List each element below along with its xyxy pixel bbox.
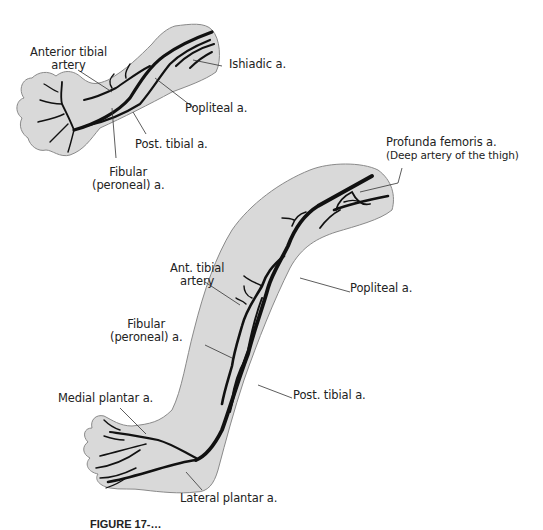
label-line-2: artery <box>170 275 224 288</box>
figure-caption: FIGURE 17-… <box>90 518 162 530</box>
caption-figure-number: FIGURE 17-… <box>90 518 162 530</box>
label-post-tibial-artery-small: Post. tibial a. <box>135 138 208 151</box>
label-popliteal-artery-small: Popliteal a. <box>185 102 247 115</box>
label-line-2: (peroneal) a. <box>110 331 183 344</box>
label-anterior-tibial-artery-small: Anterior tibial artery <box>30 46 107 72</box>
label-fibular-artery-small: Fibular (peroneal) a. <box>92 166 165 192</box>
label-post-tibial-artery-large: Post. tibial a. <box>293 389 366 402</box>
label-line-2: artery <box>30 59 107 72</box>
label-profunda-femoris-artery: Profunda femoris a. (Deep artery of the … <box>386 136 519 162</box>
label-ant-tibial-artery-large: Ant. tibial artery <box>170 262 224 288</box>
label-medial-plantar-artery: Medial plantar a. <box>58 392 153 405</box>
label-fibular-artery-large: Fibular (peroneal) a. <box>110 318 183 344</box>
label-lateral-plantar-artery: Lateral plantar a. <box>180 492 277 505</box>
label-ishiadic-artery: Ishiadic a. <box>229 58 286 71</box>
label-line-1: Profunda femoris a. <box>386 136 519 149</box>
label-line-2: (Deep artery of the thigh) <box>386 149 519 162</box>
label-line-2: (peroneal) a. <box>92 179 165 192</box>
small-limb-silhouette <box>17 24 220 155</box>
label-popliteal-artery-large: Popliteal a. <box>350 282 412 295</box>
